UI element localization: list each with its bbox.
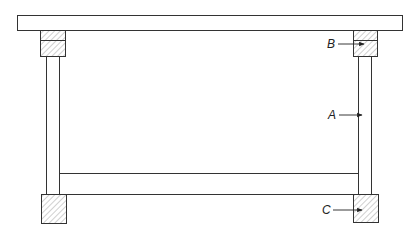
label-a: A (327, 108, 336, 122)
top-beam (18, 16, 403, 31)
left-post (47, 57, 60, 195)
right-post-a (359, 57, 372, 195)
left-bottom-block (42, 195, 67, 224)
right-top-block-b (354, 31, 378, 57)
label-c: C (322, 203, 331, 217)
right-bottom-block-c (354, 195, 379, 223)
left-top-block (41, 31, 66, 57)
frame-diagram: B A C (0, 0, 415, 239)
label-a-group: A (327, 108, 362, 122)
label-b: B (327, 37, 335, 51)
crossbar (60, 174, 359, 195)
